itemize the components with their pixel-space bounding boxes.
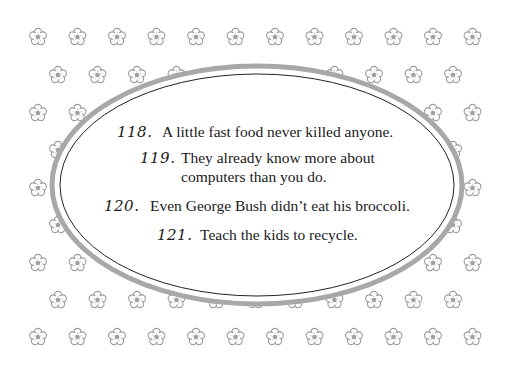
item-text-120: Even George Bush didn’t eat his broccoli… xyxy=(150,198,410,214)
item-number-121: 121. xyxy=(157,228,192,243)
item-text-119: They already know more about xyxy=(181,150,375,166)
item-text-121: Teach the kids to recycle. xyxy=(200,227,358,243)
page: 118. A little fast food never killed any… xyxy=(0,0,515,367)
item-number-120: 120. xyxy=(104,199,139,214)
item-number-118: 118. xyxy=(117,125,152,140)
item-text-119-line2: computers than you do. xyxy=(181,169,327,185)
item-number-119: 119. xyxy=(140,151,175,166)
oval-inner-line xyxy=(60,74,454,296)
item-text-118: A little fast food never killed anyone. xyxy=(162,124,393,140)
